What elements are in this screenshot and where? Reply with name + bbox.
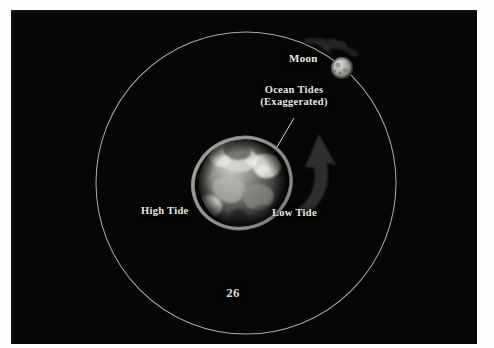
moon-body — [331, 57, 353, 79]
label-moon: Moon — [289, 52, 318, 64]
page-number: 26 — [213, 285, 253, 301]
earth-rotation-arrow — [295, 134, 336, 216]
label-ocean-tides: Ocean Tides (Exaggerated) — [244, 84, 344, 108]
figure-root: Moon Ocean Tides (Exaggerated) High Tide… — [0, 0, 494, 348]
label-high-tide: High Tide — [141, 205, 189, 216]
label-low-tide: Low Tide — [272, 207, 317, 218]
ocean-tides-leader-line — [277, 118, 294, 147]
label-ocean-tides-line1: Ocean Tides — [265, 84, 324, 95]
label-ocean-tides-line2: (Exaggerated) — [244, 96, 344, 108]
